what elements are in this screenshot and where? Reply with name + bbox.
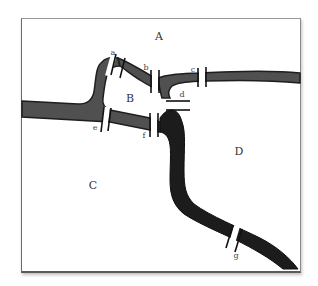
region-label-b: B — [126, 93, 134, 104]
region-label-a: A — [155, 31, 163, 42]
bridge-d — [166, 101, 190, 110]
region-label-c: C — [89, 180, 97, 191]
bridge-label-e: e — [93, 124, 98, 132]
bridge-label-a: a — [111, 49, 116, 57]
bridge-label-g: g — [233, 252, 238, 260]
bridge-label-b: b — [143, 64, 148, 72]
river-map — [0, 0, 318, 286]
bridge-f — [150, 113, 158, 138]
bridge-label-d: d — [179, 91, 184, 99]
bridge-b — [151, 70, 159, 94]
bridge-label-c: c — [191, 66, 195, 74]
bridge-c — [198, 67, 206, 88]
bridge-label-f: f — [143, 132, 146, 140]
region-label-d: D — [235, 146, 244, 157]
diagram-canvas: A B C D a b c d e f g — [0, 0, 318, 286]
